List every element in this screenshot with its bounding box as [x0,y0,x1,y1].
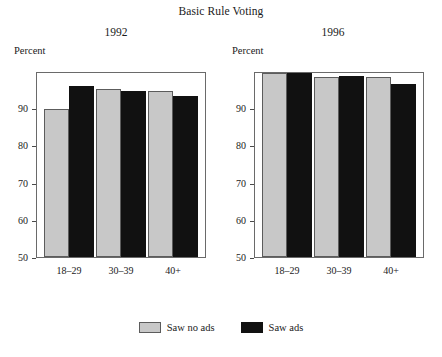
legend-swatch-saw-no-ads [139,322,161,333]
legend-swatch-saw-ads [241,322,263,333]
bar-1996-saw-no-ads-18-29 [262,73,287,257]
y-tick-90-panel-1996 [250,109,254,110]
y-tick-50-panel-1996 [250,258,254,259]
bar-1996-saw-no-ads-40+ [366,77,391,257]
bar-1996-saw-ads-18-29 [287,73,312,257]
x-tick-label-40+-panel-1996: 40+ [364,265,418,276]
bar-1992-saw-ads-40+ [173,96,198,257]
y-tick-70-panel-1992 [32,184,36,185]
bar-1996-saw-no-ads-30-39 [314,77,339,257]
y-tick-90-panel-1992 [32,109,36,110]
y-axis-unit-label-right: Percent [232,45,264,56]
legend-label-saw-no-ads: Saw no ads [167,322,215,333]
y-tick-label-80-panel-1992: 80 [6,140,28,151]
chart-title: Basic Rule Voting [0,5,442,17]
y-tick-label-50-panel-1992: 50 [6,252,28,263]
bar-group-1992 [37,73,205,257]
x-tick-label-18-29-panel-1992: 18–29 [42,265,96,276]
bar-1992-saw-no-ads-30-39 [96,89,121,257]
y-tick-label-60-panel-1992: 60 [6,215,28,226]
y-tick-60-panel-1996 [250,221,254,222]
x-tick-label-30-39-panel-1992: 30–39 [94,265,148,276]
panel-title-1992: 1992 [76,26,156,38]
legend-item-saw-no-ads: Saw no ads [139,322,215,333]
chart-legend: Saw no ads Saw ads [0,322,442,333]
x-tick-label-30-39-panel-1996: 30–39 [312,265,366,276]
bar-1992-saw-ads-18-29 [69,86,94,257]
y-tick-label-70-panel-1992: 70 [6,178,28,189]
panel-title-1996: 1996 [293,26,373,38]
y-tick-80-panel-1996 [250,146,254,147]
x-tick-label-18-29-panel-1996: 18–29 [260,265,314,276]
y-tick-label-80-panel-1996: 80 [224,140,246,151]
y-tick-label-90-panel-1996: 90 [224,103,246,114]
y-tick-label-70-panel-1996: 70 [224,178,246,189]
y-tick-label-60-panel-1996: 60 [224,215,246,226]
bar-1992-saw-no-ads-18-29 [44,109,69,257]
y-tick-60-panel-1992 [32,221,36,222]
bar-group-1996 [255,73,423,257]
x-tick-label-40+-panel-1992: 40+ [146,265,200,276]
y-tick-80-panel-1992 [32,146,36,147]
y-tick-50-panel-1992 [32,258,36,259]
y-axis-unit-label-left: Percent [14,45,46,56]
y-tick-label-90-panel-1992: 90 [6,103,28,114]
plot-panel-1992 [36,72,206,258]
legend-item-saw-ads: Saw ads [241,322,304,333]
legend-label-saw-ads: Saw ads [269,322,304,333]
bar-1996-saw-ads-40+ [391,84,416,257]
bar-1992-saw-ads-30-39 [121,91,146,257]
bar-1992-saw-no-ads-40+ [148,91,173,257]
bar-1996-saw-ads-30-39 [339,76,364,257]
y-tick-70-panel-1996 [250,184,254,185]
plot-panel-1996 [254,72,424,258]
y-tick-label-50-panel-1996: 50 [224,252,246,263]
